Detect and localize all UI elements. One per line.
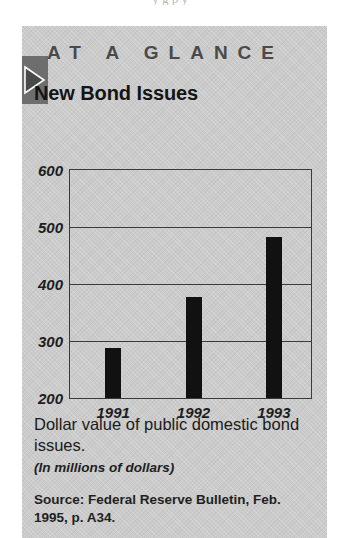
- bar: [105, 348, 121, 398]
- caption-source: Source: Federal Reserve Bulletin, Feb. 1…: [34, 491, 314, 527]
- y-axis-tick-label: 500: [38, 219, 63, 236]
- bar-chart: 200300400500600 199119921993: [22, 128, 327, 428]
- y-axis-tick-label: 200: [38, 390, 63, 407]
- plot-frame: 200300400500600 199119921993: [69, 169, 312, 399]
- bar: [266, 237, 282, 398]
- page-title: New Bond Issues: [34, 82, 198, 105]
- page-bleed-text: y g p y: [0, 0, 340, 5]
- gridline: [70, 227, 311, 228]
- caption-description: Dollar value of public domestic bond iss…: [34, 414, 310, 456]
- caption-units: (In millions of dollars): [34, 460, 314, 475]
- bar: [186, 297, 202, 398]
- y-axis-tick-label: 400: [38, 276, 63, 293]
- panel-header: AT A GLANCE: [47, 42, 284, 64]
- at-a-glance-panel: AT A GLANCE New Bond Issues 200300400500…: [22, 26, 327, 538]
- y-axis-tick-label: 300: [38, 333, 63, 350]
- y-axis-tick-label: 600: [38, 162, 63, 179]
